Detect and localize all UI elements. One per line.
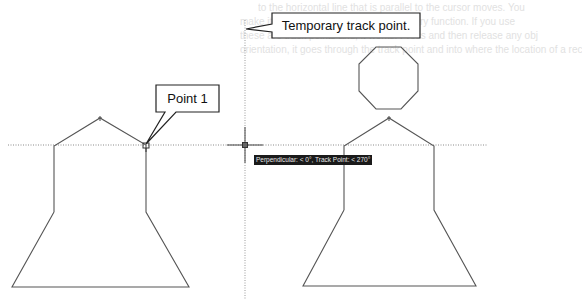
- left-figure: [12, 116, 189, 287]
- right-figure: [303, 116, 476, 286]
- tracking-tooltip: Perpendicular: < 0°, Track Point: < 270°: [254, 155, 372, 165]
- callout-temporary-track-point-label: Temporary track point.: [272, 13, 420, 38]
- callout-point-1-label: Point 1: [156, 85, 219, 112]
- octagon-head: [359, 47, 418, 109]
